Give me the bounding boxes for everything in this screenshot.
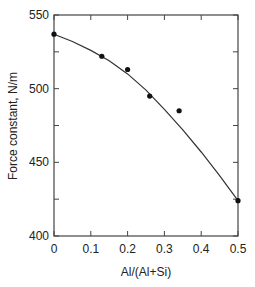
tick-labels: 00.10.20.30.40.5400450500550 (29, 8, 247, 256)
x-tick-label: 0.5 (230, 242, 247, 256)
data-point (125, 67, 130, 72)
plot-frame (54, 15, 238, 236)
fit-curve (54, 34, 238, 200)
y-tick-label: 550 (29, 8, 49, 22)
chart: 00.10.20.30.40.5400450500550 Al/(Al+Si) … (0, 0, 255, 287)
data-point (51, 32, 56, 37)
data-points (51, 32, 240, 204)
data-point (235, 198, 240, 203)
x-tick-label: 0.4 (193, 242, 210, 256)
y-axis-title: Force constant, N/m (6, 72, 20, 180)
y-tick-label: 400 (29, 229, 49, 243)
y-tick-label: 450 (29, 155, 49, 169)
data-point (177, 108, 182, 113)
x-axis-title: Al/(Al+Si) (121, 265, 171, 279)
axes (54, 15, 238, 236)
x-tick-label: 0.3 (156, 242, 173, 256)
y-tick-label: 500 (29, 82, 49, 96)
x-tick-label: 0 (51, 242, 58, 256)
x-tick-label: 0.2 (119, 242, 136, 256)
x-tick-label: 0.1 (82, 242, 99, 256)
ticks (54, 15, 238, 236)
data-point (99, 54, 104, 59)
data-point (147, 93, 152, 98)
